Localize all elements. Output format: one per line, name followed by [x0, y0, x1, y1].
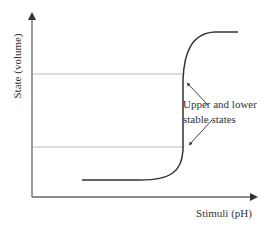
x-axis-label: Stimuli (pH): [196, 207, 252, 220]
annotation-line-1: Upper and lower: [183, 98, 257, 110]
annotation-line-2: stable states: [183, 113, 236, 125]
diagram-svg: State (volume) Stimuli (pH) Upper and lo…: [0, 0, 270, 230]
y-axis-label: State (volume): [11, 33, 24, 98]
diagram-canvas: State (volume) Stimuli (pH) Upper and lo…: [0, 0, 270, 230]
